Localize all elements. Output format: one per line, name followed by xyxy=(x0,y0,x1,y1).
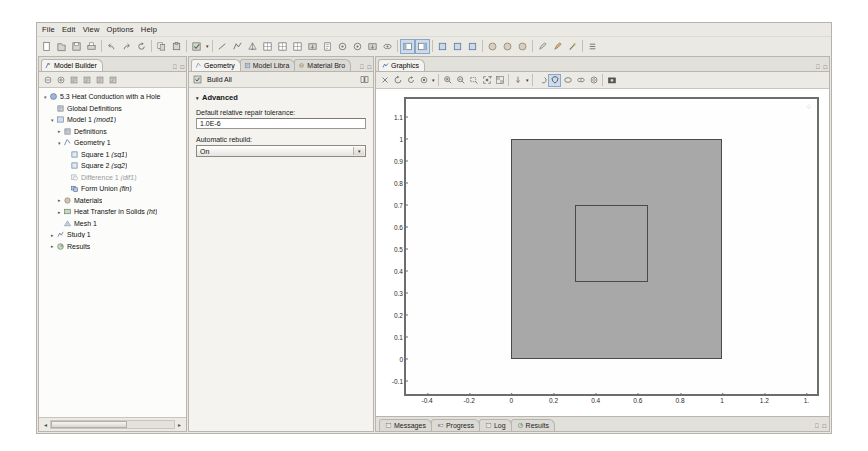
export-icon[interactable] xyxy=(305,39,320,54)
tree-node-1-icon[interactable] xyxy=(67,73,80,86)
axis-orientation-icon[interactable] xyxy=(511,74,524,87)
material-2-icon[interactable] xyxy=(500,39,515,54)
view-split-right-icon[interactable] xyxy=(415,39,430,54)
tree-item-model-1[interactable]: ▾Model 1 (mod1) xyxy=(39,114,186,126)
tree-item-root[interactable]: ▾5.3 Heat Conduction with a Hole_ xyxy=(39,91,186,103)
tree-item-geometry-1[interactable]: ▾Geometry 1 xyxy=(39,137,186,149)
minimize-icon[interactable]: □ xyxy=(180,64,184,70)
refresh-view-icon[interactable] xyxy=(404,74,417,87)
tree-node-3-icon[interactable] xyxy=(93,73,106,86)
tree-item-square-2[interactable]: Square 2 (sq2) xyxy=(39,160,186,172)
select-boundary-icon[interactable] xyxy=(587,74,600,87)
tree-item-results[interactable]: ▸Results xyxy=(39,241,186,253)
paste-icon[interactable] xyxy=(169,39,184,54)
refresh-icon[interactable] xyxy=(134,39,149,54)
chevron-down-icon[interactable]: ▾ xyxy=(42,94,49,100)
restore-icon[interactable]: ⎕ xyxy=(173,64,177,70)
tree-item-form-union[interactable]: Form Union (fin) xyxy=(39,183,186,195)
minimize-icon[interactable]: □ xyxy=(822,423,826,429)
tree-item-mesh-1[interactable]: Mesh 1 xyxy=(39,218,186,230)
chevron-right-icon[interactable]: ▸ xyxy=(49,243,56,249)
table-icon[interactable] xyxy=(290,39,305,54)
geometry-inner-square[interactable] xyxy=(575,205,649,282)
chevron-down-icon[interactable]: ▾ xyxy=(430,73,436,88)
status-tab-progress[interactable]: Progress xyxy=(431,419,480,431)
build-icon[interactable] xyxy=(189,39,204,54)
list-icon[interactable] xyxy=(585,39,600,54)
copy-icon[interactable] xyxy=(154,39,169,54)
geom-2-icon[interactable] xyxy=(450,39,465,54)
print-icon[interactable] xyxy=(84,39,99,54)
tree-item-difference-1[interactable]: Difference 1 (dif1) xyxy=(39,172,186,184)
undo-icon[interactable] xyxy=(104,39,119,54)
restore-icon[interactable]: ⎕ xyxy=(816,64,820,70)
scene-light-icon[interactable] xyxy=(417,74,430,87)
zoom-in-icon[interactable] xyxy=(441,74,454,87)
status-tab-results[interactable]: Results xyxy=(511,419,555,431)
tree-item-heat-transfer[interactable]: ▸Heat Transfer in Solids (ht) xyxy=(39,206,186,218)
mesh-tool-icon[interactable] xyxy=(245,39,260,54)
polygon-tool-icon[interactable] xyxy=(230,39,245,54)
minimize-icon[interactable]: □ xyxy=(823,64,827,70)
tab-geometry[interactable]: Geometry xyxy=(191,59,241,71)
chevron-right-icon[interactable]: ▸ xyxy=(49,232,56,238)
menu-options[interactable]: Options xyxy=(106,25,140,34)
zoom-extents-icon[interactable] xyxy=(480,74,493,87)
scroll-right-icon[interactable]: ▸ xyxy=(175,421,184,428)
zoom-out-icon[interactable] xyxy=(454,74,467,87)
new-file-icon[interactable] xyxy=(39,39,54,54)
geom-1-icon[interactable] xyxy=(435,39,450,54)
plot-1-icon[interactable] xyxy=(260,39,275,54)
scroll-thumb[interactable] xyxy=(51,421,127,428)
restore-icon[interactable]: ⎕ xyxy=(815,423,819,429)
select-all-icon[interactable] xyxy=(535,74,548,87)
import-icon[interactable] xyxy=(365,39,380,54)
transparency-icon[interactable] xyxy=(493,74,506,87)
view-split-left-icon[interactable] xyxy=(400,39,415,54)
restore-icon[interactable]: ⎕ xyxy=(360,64,364,70)
geom-3-icon[interactable] xyxy=(465,39,480,54)
chevron-down-icon[interactable]: ▾ xyxy=(353,147,364,155)
minimize-icon[interactable]: □ xyxy=(367,64,371,70)
graphics-canvas[interactable]: ♢ 1.110.90.80.70.60.50.40.30.20.10-0.1-0… xyxy=(376,89,829,416)
chevron-right-icon[interactable]: ▸ xyxy=(56,197,63,203)
menu-view[interactable]: View xyxy=(82,25,106,34)
probe-icon[interactable] xyxy=(335,39,350,54)
target-icon[interactable] xyxy=(350,39,365,54)
chevron-down-icon[interactable]: ▾ xyxy=(56,140,63,146)
zoom-box-icon[interactable] xyxy=(467,74,480,87)
redo-icon[interactable] xyxy=(119,39,134,54)
report-icon[interactable] xyxy=(320,39,335,54)
line-tool-icon[interactable] xyxy=(215,39,230,54)
tree-item-square-1[interactable]: Square 1 (sq1) xyxy=(39,149,186,161)
chevron-right-icon[interactable]: ▸ xyxy=(56,209,63,215)
tab-model-library[interactable]: Model Libra xyxy=(240,59,296,71)
zoom-in-scene-icon[interactable] xyxy=(378,74,391,87)
model-tree[interactable]: ▾5.3 Heat Conduction with a Hole_Global … xyxy=(39,88,186,417)
save-icon[interactable] xyxy=(69,39,84,54)
wand-icon[interactable] xyxy=(565,39,580,54)
build-all-icon[interactable] xyxy=(191,73,204,86)
tree-node-4-icon[interactable] xyxy=(106,73,119,86)
select-domain-icon[interactable] xyxy=(574,74,587,87)
status-tab-messages[interactable]: Messages xyxy=(379,419,432,431)
menu-edit[interactable]: Edit xyxy=(61,25,82,34)
chevron-down-icon[interactable]: ▾ xyxy=(524,73,530,88)
material-1-icon[interactable] xyxy=(485,39,500,54)
brush-icon[interactable] xyxy=(550,39,565,54)
tab-model-builder[interactable]: Model Builder xyxy=(41,59,103,71)
tree-item-materials[interactable]: ▸Materials xyxy=(39,195,186,207)
expand-icon[interactable] xyxy=(54,73,67,86)
tree-item-study-1[interactable]: ▸Study 1 xyxy=(39,229,186,241)
chevron-down-icon[interactable]: ▾ xyxy=(49,117,56,123)
tree-item-definitions[interactable]: ▸Definitions xyxy=(39,126,186,138)
menu-file[interactable]: File xyxy=(41,25,61,34)
build-all-label[interactable]: Build All xyxy=(207,76,232,83)
plot-2-icon[interactable] xyxy=(275,39,290,54)
collapse-icon[interactable] xyxy=(41,73,54,86)
image-snapshot-icon[interactable] xyxy=(605,74,618,87)
advanced-section-header[interactable]: ▾ Advanced xyxy=(196,93,366,102)
automatic-rebuild-select[interactable]: On ▾ xyxy=(196,145,366,157)
scroll-track[interactable] xyxy=(50,420,175,429)
help-book-icon[interactable] xyxy=(358,73,371,86)
